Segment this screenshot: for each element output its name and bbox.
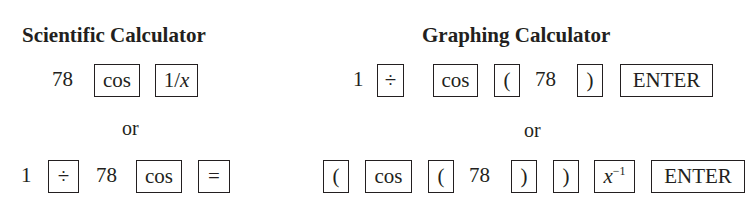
number-value: 78 [52, 67, 73, 91]
cos-key: cos [433, 64, 478, 97]
close-paren-key: ) [553, 160, 579, 193]
reciprocal-key-label: 1/x [164, 68, 190, 92]
divide-key: ÷ [48, 160, 79, 193]
inverse-key-exponent: −1 [613, 164, 626, 178]
graphing-calculator-title: Graphing Calculator [422, 23, 610, 47]
or-separator: or [524, 118, 541, 142]
close-paren-key: ) [511, 160, 537, 193]
lead-number: 1 [353, 67, 364, 91]
equals-key: = [198, 160, 230, 193]
cos-key: cos [94, 64, 140, 97]
open-paren-key: ( [323, 160, 349, 193]
enter-key: ENTER [651, 160, 745, 193]
open-paren-key: ( [494, 64, 520, 97]
scientific-calculator-title: Scientific Calculator [22, 23, 206, 47]
number-value: 78 [96, 163, 117, 187]
inverse-key-base: x [603, 164, 612, 188]
lead-number: 1 [21, 163, 32, 187]
enter-key: ENTER [620, 64, 713, 97]
divide-key: ÷ [377, 64, 404, 97]
inverse-key: x−1 [594, 160, 635, 193]
or-separator: or [122, 116, 139, 140]
reciprocal-key: 1/x [155, 64, 198, 97]
cos-key: cos [365, 160, 412, 193]
cos-key: cos [136, 160, 182, 193]
close-paren-key: ) [577, 64, 603, 97]
number-value: 78 [535, 67, 556, 91]
open-paren-key: ( [428, 160, 454, 193]
number-value: 78 [469, 163, 490, 187]
